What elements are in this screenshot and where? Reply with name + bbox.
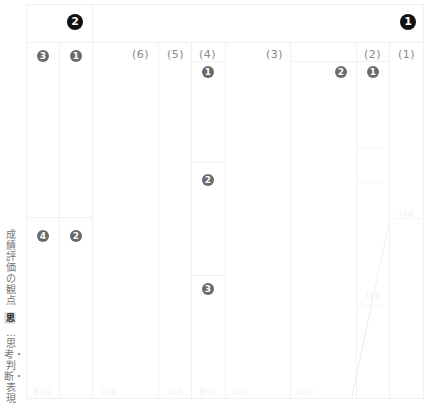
column-label-2: (2) (364, 48, 381, 61)
item-number-2: 2 (70, 230, 82, 242)
faint-score-mark: 10点 (398, 208, 414, 218)
footer-score: 各5点 (33, 386, 51, 396)
thinking-badge: 思 (4, 312, 16, 324)
item-number-2-2: 2 (335, 66, 347, 78)
column-label-1: (1) (398, 48, 415, 61)
column-label-6: (6) (132, 48, 149, 61)
item-number-4-2: 2 (202, 174, 214, 186)
footer-score: 10点 (100, 386, 116, 396)
item-number-3: 3 (37, 50, 49, 62)
footer-score: 10点 (233, 386, 249, 396)
group-number-1: 1 (400, 14, 416, 30)
item-number-4-3: 3 (202, 283, 214, 295)
thinking-description: …思考・判断・表現 (4, 327, 18, 404)
faint-score-mark: 10点 (365, 290, 381, 300)
footer-score: 10点 (298, 386, 314, 396)
item-number-2-1: 1 (367, 66, 379, 78)
item-number-1: 1 (70, 50, 82, 62)
column-label-5: (5) (167, 48, 184, 61)
evaluation-perspective-label: 成績評価の観点 (4, 229, 18, 306)
group-number-2: 2 (67, 14, 83, 30)
item-number-4: 4 (37, 230, 49, 242)
column-label-3: (3) (266, 48, 283, 61)
footer-score: 10点 (167, 386, 183, 396)
item-number-4-1: 1 (202, 66, 214, 78)
footer-score: 各5点 (199, 386, 217, 396)
column-label-4: (4) (199, 48, 216, 61)
